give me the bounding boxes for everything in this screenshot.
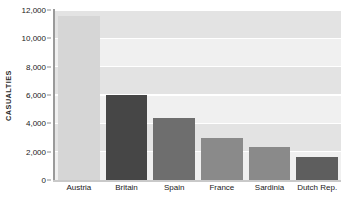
bar	[201, 138, 242, 181]
x-tick-label: Austria	[55, 183, 103, 192]
x-tick-label: Sardinia	[246, 183, 294, 192]
y-tick-label: 12,000	[22, 6, 46, 15]
bar	[296, 157, 337, 180]
y-tick-mark	[47, 151, 51, 152]
y-tick-mark	[47, 180, 51, 181]
bar	[153, 118, 194, 180]
y-axis-title: CASUALTIES	[0, 0, 16, 190]
y-tick-mark	[47, 10, 51, 11]
y-tick-mark	[47, 123, 51, 124]
y-tick-mark	[47, 95, 51, 96]
y-tick-mark	[47, 38, 51, 39]
x-axis-line	[53, 180, 341, 182]
x-tick-label: Dutch Rep.	[293, 183, 341, 192]
x-axis-tick-labels: AustriaBritainSpainFranceSardiniaDutch R…	[55, 183, 341, 203]
y-tick-label: 10,000	[22, 34, 46, 43]
bar	[58, 16, 99, 180]
x-tick-label: Spain	[150, 183, 198, 192]
x-tick-label: Britain	[103, 183, 151, 192]
y-tick-label: 0	[42, 176, 46, 185]
bar	[249, 147, 290, 180]
y-tick-mark	[47, 66, 51, 67]
y-tick-label: 4,000	[26, 119, 46, 128]
bar-chart: CASUALTIES 02,0004,0006,0008,00010,00012…	[0, 0, 346, 211]
y-tick-label: 8,000	[26, 62, 46, 71]
y-axis-title-label: CASUALTIES	[4, 70, 13, 121]
x-tick-label: France	[198, 183, 246, 192]
bar	[106, 95, 147, 180]
plot-area	[55, 10, 341, 180]
bars-layer	[55, 10, 341, 180]
y-axis-tick-labels: 02,0004,0006,0008,00010,00012,000	[16, 0, 51, 190]
y-tick-label: 6,000	[26, 91, 46, 100]
y-tick-label: 2,000	[26, 147, 46, 156]
